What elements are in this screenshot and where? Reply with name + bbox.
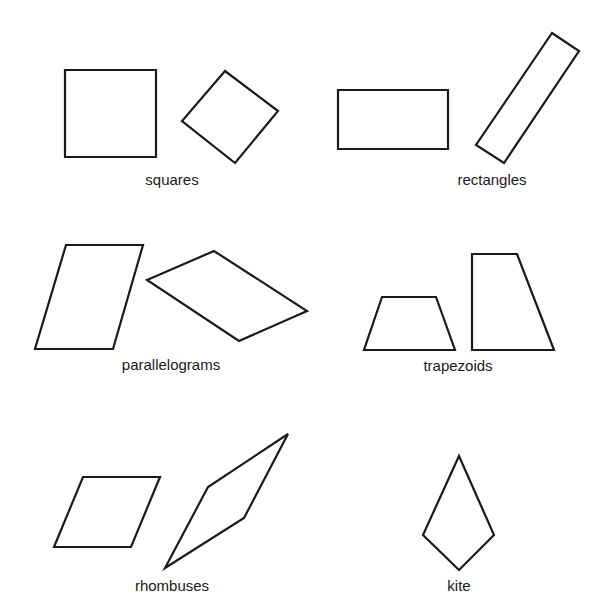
label-rhombuses: rhombuses: [135, 577, 209, 594]
parallelogram-tall: [35, 245, 143, 349]
kite: [423, 456, 494, 570]
group-squares: squares: [65, 70, 278, 188]
group-trapezoids: trapezoids: [364, 254, 554, 374]
label-squares: squares: [145, 171, 198, 188]
rectangle-axis-aligned: [338, 90, 448, 149]
label-rectangles: rectangles: [457, 171, 526, 188]
trapezoid-right: [472, 254, 554, 350]
quadrilaterals-diagram: squares rectangles parallelograms trapez…: [0, 0, 605, 611]
square-axis-aligned: [65, 70, 156, 157]
rhombus-narrow: [165, 434, 288, 568]
label-trapezoids: trapezoids: [423, 357, 492, 374]
group-rectangles: rectangles: [338, 33, 579, 188]
label-kite: kite: [447, 577, 470, 594]
parallelogram-tilted: [147, 251, 307, 341]
trapezoid-isosceles: [364, 297, 455, 350]
diagram-svg: squares rectangles parallelograms trapez…: [0, 0, 605, 611]
rectangle-rotated: [476, 33, 579, 163]
rhombus-wide: [54, 477, 160, 547]
group-parallelograms: parallelograms: [35, 245, 307, 373]
label-parallelograms: parallelograms: [122, 356, 220, 373]
group-kite: kite: [423, 456, 494, 594]
square-rotated: [182, 71, 278, 163]
group-rhombuses: rhombuses: [54, 434, 288, 594]
